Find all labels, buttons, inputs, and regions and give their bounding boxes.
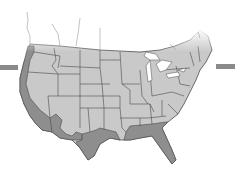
map-svg: [0, 0, 235, 181]
us-map: [0, 0, 235, 181]
gulf-states-highlight: [124, 122, 176, 164]
northern-fade: [0, 0, 235, 52]
